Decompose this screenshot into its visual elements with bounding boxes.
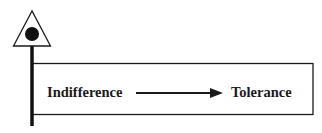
- arrow-right-icon: [210, 88, 223, 98]
- dot-icon: [25, 27, 39, 41]
- from-label: Indifference: [47, 85, 122, 100]
- to-label: Tolerance: [231, 85, 292, 100]
- diagram-graphics: [0, 0, 322, 133]
- diagram-canvas: Indifference Tolerance: [0, 0, 322, 133]
